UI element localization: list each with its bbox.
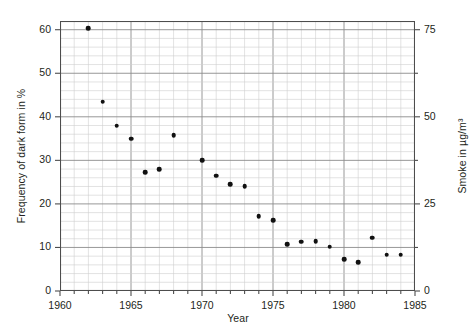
data-point [271,218,276,223]
data-point [313,239,318,244]
y-tick-left-10: 10 [11,240,51,252]
data-point [115,123,120,128]
y-tick-right-0: 0 [424,284,464,296]
grid-and-frame [60,21,415,291]
data-point [214,173,219,178]
data-point [384,253,389,258]
data-point [299,239,304,244]
data-point [242,184,247,189]
data-point [200,158,205,163]
x-tick-1970: 1970 [172,299,232,311]
y-tick-left-20: 20 [11,197,51,209]
data-point [157,167,162,172]
data-point [100,99,105,104]
data-point [171,133,176,138]
data-point [370,236,375,241]
y-tick-left-50: 50 [11,66,51,78]
x-tick-1980: 1980 [314,299,374,311]
y-tick-left-0: 0 [11,284,51,296]
x-axis-title: Year [60,312,416,324]
plot-area [60,21,415,291]
y-tick-right-25: 25 [424,197,464,209]
data-point [356,260,361,265]
data-point [86,26,91,31]
data-point [328,244,333,249]
data-point [257,214,262,219]
x-tick-1985: 1985 [385,299,445,311]
y-tick-left-60: 60 [11,23,51,35]
data-point [342,257,347,262]
y-tick-right-50: 50 [424,110,464,122]
data-point [129,136,134,141]
data-point [285,242,290,247]
x-tick-1965: 1965 [101,299,161,311]
y-tick-left-30: 30 [11,153,51,165]
x-tick-1960: 1960 [30,299,90,311]
data-point [399,253,404,258]
y-axis-right-title: Smoke in µg/m³ [455,21,469,291]
x-tick-1975: 1975 [243,299,303,311]
y-tick-right-75: 75 [424,23,464,35]
data-point [143,170,148,175]
y-tick-left-40: 40 [11,110,51,122]
data-point [228,182,233,187]
